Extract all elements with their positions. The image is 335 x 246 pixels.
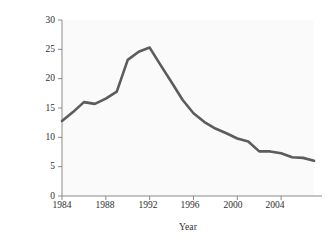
chart-figure: Cases per 100,000 residents 30 25 20 15 … xyxy=(0,0,335,246)
x-axis-ticks xyxy=(62,196,281,200)
plot-area xyxy=(0,0,335,246)
y-axis-ticks xyxy=(58,20,62,196)
